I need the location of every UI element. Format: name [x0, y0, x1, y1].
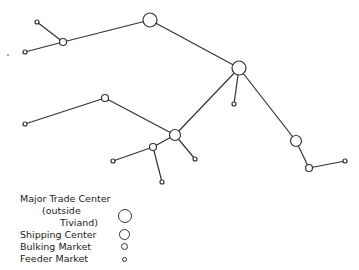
- legend-label-bulking: Bulking Market: [20, 241, 91, 253]
- feeder-market-symbol-icon: [122, 257, 127, 262]
- bulking-node-icon: [60, 39, 67, 46]
- feeder-node-icon: [232, 102, 236, 106]
- feeder-node-icon: [23, 50, 27, 54]
- edge: [150, 20, 239, 68]
- legend-label-feeder: Feeder Market: [20, 253, 88, 265]
- legend-label-shipping: Shipping Center: [20, 229, 96, 241]
- edge: [175, 68, 239, 135]
- bulking-node-icon: [150, 144, 157, 151]
- bulking-node-icon: [102, 95, 109, 102]
- edge: [153, 147, 162, 182]
- edge: [239, 68, 296, 141]
- bulking-node-icon: [306, 165, 313, 172]
- legend-label-major: Major Trade Center: [20, 193, 110, 205]
- feeder-node-icon: [35, 20, 39, 24]
- legend-bulking: Bulking Market: [20, 241, 140, 253]
- edge: [25, 98, 105, 124]
- legend-feeder: Feeder Market: [20, 253, 140, 265]
- edge: [25, 42, 63, 52]
- major-trade-center-symbol-icon: [118, 209, 132, 223]
- edge: [105, 98, 175, 135]
- legend-shipping: Shipping Center: [20, 229, 140, 241]
- edge: [113, 147, 153, 161]
- stray-dot: [7, 54, 9, 56]
- feeder-node-icon: [23, 122, 27, 126]
- legend-major-line3: Tiviand): [20, 217, 140, 229]
- edge: [37, 22, 63, 42]
- legend-label-major-3: Tiviand): [60, 217, 98, 229]
- feeder-node-icon: [193, 157, 197, 161]
- feeder-node-icon: [343, 159, 347, 163]
- bulking-market-symbol-icon: [121, 243, 128, 250]
- shipping-center-symbol-icon: [119, 229, 130, 240]
- feeder-node-icon: [160, 180, 164, 184]
- legend-label-major-2: (outside: [42, 205, 81, 217]
- major-node-icon: [143, 13, 157, 27]
- edge: [63, 20, 150, 42]
- shipping-node-icon: [170, 130, 181, 141]
- legend: Major Trade Center (outside Tiviand) Shi…: [20, 193, 140, 265]
- feeder-node-icon: [111, 159, 115, 163]
- edge: [309, 161, 345, 168]
- major-node-icon: [232, 61, 246, 75]
- shipping-node-icon: [291, 136, 302, 147]
- legend-major-line1: Major Trade Center: [20, 193, 140, 205]
